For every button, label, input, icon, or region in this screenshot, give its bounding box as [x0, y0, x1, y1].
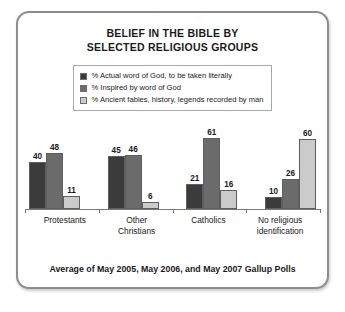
legend-item-label: % Ancient fables, history, legends recor… [91, 94, 263, 106]
legend-swatch-icon [80, 73, 87, 80]
bar-column: 60 [299, 123, 316, 209]
bar [63, 196, 80, 209]
bar-value-label: 21 [190, 174, 199, 183]
bar-column: 61 [203, 123, 220, 209]
bar [265, 197, 282, 209]
bar-column: 6 [142, 123, 159, 209]
bar-value-label: 11 [67, 186, 76, 195]
page-title: BELIEF IN THE BIBLE BY SELECTED RELIGIOU… [87, 27, 258, 54]
legend-item-label: % Actual word of God, to be taken litera… [91, 70, 232, 82]
legend-item: % Ancient fables, history, legends recor… [80, 94, 263, 106]
legend-item-label: % Inspired by word of God [91, 82, 180, 94]
bar-value-label: 6 [148, 192, 153, 201]
category-label-line: No religious [244, 215, 316, 226]
category-label-line: Catholics [173, 215, 245, 226]
bar [282, 179, 299, 209]
bar-column: 45 [108, 123, 125, 209]
legend-item: % Actual word of God, to be taken litera… [80, 70, 263, 82]
bar-value-label: 60 [303, 129, 312, 138]
bar [142, 202, 159, 209]
bar [203, 138, 220, 209]
chart-footer-caption: Average of May 2005, May 2006, and May 2… [49, 264, 295, 274]
bar-value-label: 26 [286, 169, 295, 178]
bar-column: 46 [125, 123, 142, 209]
bar-value-label: 61 [207, 128, 216, 137]
bar [108, 156, 125, 209]
x-axis-category-label: OtherChristians [101, 215, 173, 236]
bar-groups: 40481145466216116102660 [29, 123, 316, 209]
bar-value-label: 10 [269, 187, 278, 196]
x-axis-tick [246, 209, 247, 213]
legend-swatch-icon [80, 97, 87, 104]
bar-column: 16 [220, 123, 237, 209]
x-axis-category-label: Catholics [173, 215, 245, 236]
x-axis-line [25, 209, 320, 210]
title-line-2: SELECTED RELIGIOUS GROUPS [87, 41, 258, 55]
bar [299, 139, 316, 209]
bar-column: 21 [186, 123, 203, 209]
bar-group: 216116 [186, 123, 237, 209]
x-axis-category-labels: ProtestantsOtherChristiansCatholicsNo re… [29, 215, 316, 236]
category-label-line: identification [244, 226, 316, 237]
bar-column: 10 [265, 123, 282, 209]
x-axis-tick [25, 209, 26, 213]
category-label-line: Protestants [29, 215, 101, 226]
legend-swatch-icon [80, 85, 87, 92]
bar [186, 184, 203, 209]
category-label-line: Other [101, 215, 173, 226]
bar-column: 48 [46, 123, 63, 209]
bar-value-label: 40 [33, 152, 42, 161]
bar [125, 155, 142, 209]
chart-legend: % Actual word of God, to be taken litera… [73, 65, 271, 111]
bar-group: 102660 [265, 123, 316, 209]
title-line-1: BELIEF IN THE BIBLE BY [87, 27, 258, 41]
x-axis-tick [99, 209, 100, 213]
bar-column: 11 [63, 123, 80, 209]
chart-plot-area: 40481145466216116102660 [29, 123, 316, 209]
bar-value-label: 46 [129, 145, 138, 154]
chart-card: BELIEF IN THE BIBLE BY SELECTED RELIGIOU… [16, 11, 329, 289]
category-label-line: Christians [101, 226, 173, 237]
x-axis-category-label: Protestants [29, 215, 101, 236]
bar-value-label: 16 [224, 180, 233, 189]
x-axis-tick [173, 209, 174, 213]
x-axis-tick [320, 209, 321, 213]
legend-item: % Inspired by word of God [80, 82, 263, 94]
x-axis-category-label: No religiousidentification [244, 215, 316, 236]
bar [220, 190, 237, 209]
bar-column: 26 [282, 123, 299, 209]
bar [46, 153, 63, 209]
bar-value-label: 45 [112, 146, 121, 155]
bar [29, 162, 46, 209]
bar-value-label: 48 [50, 143, 59, 152]
bar-column: 40 [29, 123, 46, 209]
bar-group: 404811 [29, 123, 80, 209]
bar-group: 45466 [108, 123, 159, 209]
